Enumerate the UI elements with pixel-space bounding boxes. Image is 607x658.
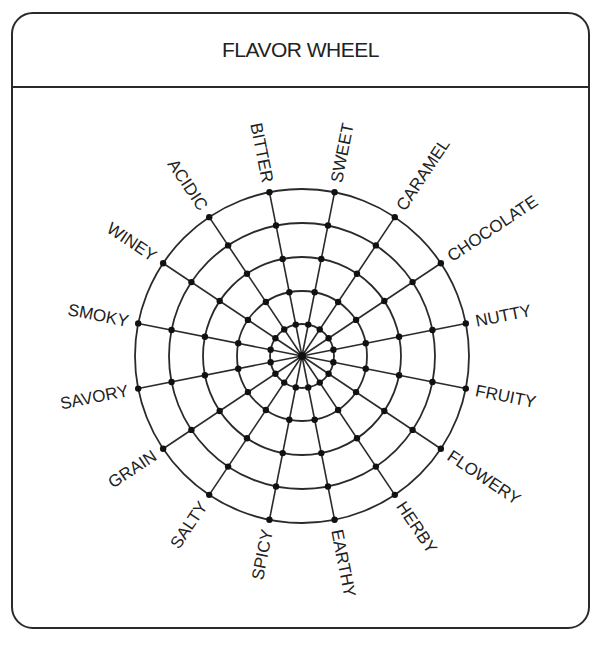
label-herby: HERBY	[392, 498, 440, 557]
intersection-dot	[293, 384, 299, 390]
intersection-dot	[311, 417, 317, 423]
intersection-dot	[429, 379, 435, 385]
intersection-dot	[235, 365, 241, 371]
intersection-dot	[305, 384, 311, 390]
intersection-dot	[202, 372, 208, 378]
label-savory: SAVORY	[59, 381, 131, 413]
intersection-dot	[272, 335, 278, 341]
label-chocolate: CHOCOLATE	[444, 192, 541, 266]
intersection-dot	[281, 326, 287, 332]
label-nutty: NUTTY	[474, 301, 533, 331]
intersection-dot	[202, 333, 208, 339]
intersection-dot	[206, 492, 212, 498]
intersection-dot	[331, 517, 337, 523]
intersection-dot	[392, 214, 398, 220]
intersection-dot	[225, 463, 231, 469]
intersection-dot	[330, 347, 336, 353]
intersection-dot	[272, 371, 278, 377]
intersection-dot	[135, 385, 141, 391]
intersection-dot	[263, 407, 269, 413]
intersection-dot	[396, 372, 402, 378]
intersection-dot	[363, 340, 369, 346]
intersection-dot	[318, 256, 324, 262]
intersection-dot	[463, 320, 469, 326]
intersection-dot	[438, 446, 444, 452]
intersection-dot	[273, 222, 279, 228]
intersection-dot	[373, 242, 379, 248]
intersection-dot	[325, 371, 331, 377]
intersection-dot	[429, 327, 435, 333]
intersection-dot	[317, 326, 323, 332]
intersection-dot	[286, 417, 292, 423]
intersection-dot	[335, 407, 341, 413]
intersection-dot	[363, 365, 369, 371]
intersection-dot	[279, 256, 285, 262]
intersection-dot	[409, 427, 415, 433]
intersection-dot	[266, 517, 272, 523]
intersection-dot	[267, 359, 273, 365]
flavor-wheel-diagram: SWEETCARAMELCHOCOLATENUTTYFRUITYFLOWERYH…	[0, 0, 607, 658]
intersection-dot	[381, 298, 387, 304]
intersection-dot	[216, 298, 222, 304]
intersection-dot	[160, 446, 166, 452]
label-flowery: FLOWERY	[444, 446, 524, 508]
label-salty: SALTY	[167, 498, 212, 552]
intersection-dot	[330, 359, 336, 365]
intersection-dot	[335, 299, 341, 305]
intersection-dot	[168, 379, 174, 385]
intersection-dot	[354, 435, 360, 441]
intersection-dot	[293, 321, 299, 327]
intersection-dot	[438, 260, 444, 266]
intersection-dot	[263, 299, 269, 305]
intersection-dot	[245, 389, 251, 395]
intersection-dot	[325, 335, 331, 341]
intersection-dot	[244, 270, 250, 276]
label-smoky: SMOKY	[66, 300, 130, 331]
intersection-dots	[135, 189, 469, 523]
intersection-dot	[279, 450, 285, 456]
label-fruity: FRUITY	[474, 381, 538, 412]
intersection-dot	[354, 270, 360, 276]
intersection-dot	[266, 189, 272, 195]
label-grain: GRAIN	[105, 446, 160, 492]
intersection-dot	[235, 340, 241, 346]
intersection-dot	[353, 389, 359, 395]
intersection-dot	[267, 347, 273, 353]
intersection-dot	[396, 333, 402, 339]
intersection-dot	[281, 379, 287, 385]
intersection-dot	[325, 222, 331, 228]
intersection-dot	[188, 427, 194, 433]
intersection-dot	[273, 483, 279, 489]
label-sweet: SWEET	[327, 121, 357, 184]
intersection-dot	[325, 483, 331, 489]
center-dot	[298, 352, 306, 360]
label-bitter: BITTER	[246, 121, 276, 184]
label-acidic: ACIDIC	[164, 156, 212, 214]
intersection-dot	[188, 279, 194, 285]
intersection-dot	[305, 321, 311, 327]
intersection-dot	[463, 385, 469, 391]
intersection-dot	[317, 379, 323, 385]
intersection-dot	[318, 450, 324, 456]
intersection-dot	[392, 492, 398, 498]
intersection-dot	[373, 463, 379, 469]
label-caramel: CARAMEL	[392, 135, 453, 214]
intersection-dot	[225, 242, 231, 248]
intersection-dot	[168, 327, 174, 333]
intersection-dot	[353, 317, 359, 323]
label-winey: WINEY	[103, 219, 160, 266]
intersection-dot	[160, 260, 166, 266]
intersection-dot	[245, 317, 251, 323]
intersection-dot	[381, 408, 387, 414]
intersection-dot	[409, 279, 415, 285]
intersection-dot	[135, 320, 141, 326]
intersection-dot	[311, 289, 317, 295]
intersection-dot	[286, 289, 292, 295]
intersection-dot	[206, 214, 212, 220]
intersection-dot	[216, 408, 222, 414]
label-spicy: SPICY	[248, 528, 277, 582]
intersection-dot	[244, 435, 250, 441]
intersection-dot	[331, 189, 337, 195]
label-earthy: EARTHY	[327, 528, 359, 599]
